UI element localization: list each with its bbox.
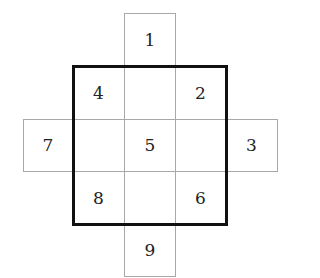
grid-line bbox=[277, 119, 278, 172]
cell-2: 2 bbox=[175, 66, 226, 119]
cell-5: 5 bbox=[124, 119, 176, 171]
cell-4: 4 bbox=[73, 66, 124, 119]
cell-7: 7 bbox=[23, 119, 73, 171]
cell-1: 1 bbox=[124, 13, 176, 66]
cell-6: 6 bbox=[175, 171, 226, 224]
cell-9: 9 bbox=[124, 224, 176, 276]
grid-line bbox=[124, 276, 176, 277]
cell-8: 8 bbox=[73, 171, 124, 224]
cell-3: 3 bbox=[226, 119, 277, 171]
